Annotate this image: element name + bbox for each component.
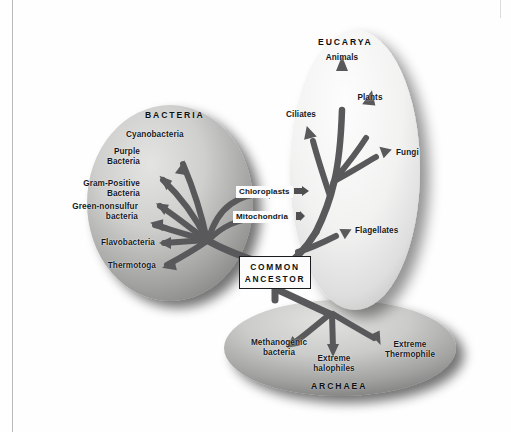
- taxon-label-extreme-thermophile-line2: Thermophile: [385, 350, 435, 359]
- taxon-label-ciliates: Ciliates: [275, 110, 327, 120]
- arrowhead-chloroplasts-out: [294, 186, 310, 198]
- taxon-label-plants: Plants: [349, 93, 391, 103]
- taxon-label-gram-positive: Gram-Positive Bacteria: [50, 179, 140, 199]
- taxon-label-cyanobacteria: Cyanobacteria: [126, 130, 184, 140]
- common-ancestor-box: COMMON ANCESTOR: [239, 256, 311, 289]
- taxon-label-methanogenic-bacteria-line2: bacteria: [263, 348, 295, 357]
- taxon-label-extreme-thermophile-line1: Extreme: [393, 340, 426, 349]
- taxon-label-green-nonsulfur-line1: Green-nonsulfur: [72, 202, 138, 211]
- taxon-label-extreme-halophiles-line1: Extreme: [317, 354, 350, 363]
- taxon-label-purple-bacteria-line1: Purple: [114, 147, 140, 156]
- taxon-label-purple-bacteria-line2: Bacteria: [107, 157, 140, 166]
- common-ancestor-line2: ANCESTOR: [245, 273, 305, 285]
- taxon-label-methanogenic-bacteria-line1: Methanogenic: [251, 338, 307, 347]
- organelle-label-chloroplasts: Chloroplasts: [236, 186, 293, 198]
- arrowhead-mitochondria-out: [294, 211, 306, 223]
- taxon-label-green-nonsulfur: Green-nonsulfur bacteria: [40, 202, 138, 222]
- domain-title-bacteria: BACTERIA: [145, 110, 205, 120]
- common-ancestor-line1: COMMON: [250, 261, 299, 273]
- taxon-label-flavobacteria: Flavobacteria: [73, 238, 155, 248]
- phylogenetic-tree-diagram: BACTERIA EUCARYA ARCHAEA Cyanobacteria P…: [0, 0, 511, 432]
- organelle-label-mitochondria: Mitochondria: [233, 211, 291, 223]
- taxon-label-extreme-thermophile: Extreme Thermophile: [372, 340, 448, 360]
- domain-title-eucarya: EUCARYA: [318, 37, 373, 47]
- taxon-label-thermotoga: Thermotoga: [80, 261, 156, 271]
- taxon-label-extreme-halophiles-line2: halophiles: [313, 364, 355, 373]
- taxon-label-purple-bacteria: Purple Bacteria: [62, 147, 140, 167]
- taxon-label-gram-positive-line1: Gram-Positive: [83, 179, 140, 188]
- taxon-label-fungi: Fungi: [396, 148, 419, 158]
- figure-frame: BACTERIA EUCARYA ARCHAEA Cyanobacteria P…: [0, 0, 511, 432]
- taxon-label-animals: Animals: [317, 53, 367, 63]
- branch-extreme-halophiles: [332, 314, 333, 348]
- taxon-label-flagellates: Flagellates: [355, 226, 398, 236]
- taxon-label-gram-positive-line2: Bacteria: [107, 189, 140, 198]
- taxon-label-green-nonsulfur-line2: bacteria: [106, 212, 138, 221]
- domain-title-archaea: ARCHAEA: [311, 381, 367, 391]
- taxon-label-extreme-halophiles: Extreme halophiles: [299, 354, 369, 374]
